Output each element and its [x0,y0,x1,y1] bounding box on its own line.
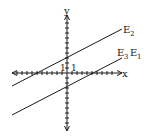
x-axis-label: x [122,68,128,79]
svg-text:1: 1 [137,53,141,61]
unit-label-x: 1 [71,63,77,73]
svg-text:3: 3 [124,53,128,61]
svg-text:2: 2 [130,30,134,38]
y-axis-label: y [63,5,70,16]
label-e2: E 2 [123,24,134,38]
unit-label-y: 1 [60,63,66,73]
coordinate-diagram: y x 1 1 E 2 E 3 E 1 [0,0,151,139]
